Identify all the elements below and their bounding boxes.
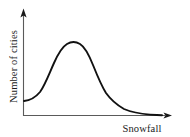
y-axis-label: Number of cities (8, 30, 19, 103)
distribution-chart: Number of cities Snowfall (0, 0, 190, 137)
figure-container: Number of cities Snowfall (0, 0, 190, 137)
distribution-curve (24, 42, 162, 115)
x-axis-label: Snowfall (122, 123, 161, 134)
